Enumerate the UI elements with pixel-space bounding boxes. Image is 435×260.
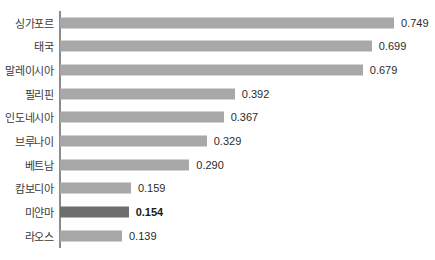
bar-segment	[60, 41, 372, 52]
plot-area: 싱가포르 0.749 태국 0.699 말레이시아 0.679 필리핀 0.39…	[0, 0, 435, 260]
category-label: 태국	[34, 38, 54, 54]
bar-segment	[60, 64, 363, 75]
bar-segment	[60, 88, 235, 99]
category-label: 라오스	[25, 228, 54, 244]
value-label: 0.329	[214, 135, 242, 147]
category-label: 싱가포르	[15, 15, 54, 31]
category-label: 베트남	[25, 157, 54, 173]
bar-segment	[60, 112, 224, 123]
value-label: 0.392	[242, 88, 270, 100]
bar-row: 인도네시아 0.367	[0, 106, 435, 129]
bar-row: 라오스 0.139	[0, 224, 435, 247]
bar-segment-highlighted	[60, 207, 129, 218]
category-label: 필리핀	[25, 86, 54, 102]
bar-segment	[60, 230, 122, 241]
bar-row: 싱가포르 0.749	[0, 11, 435, 34]
bar-chart: 싱가포르 0.749 태국 0.699 말레이시아 0.679 필리핀 0.39…	[0, 0, 435, 260]
bar-row: 캄보디아 0.159	[0, 177, 435, 200]
value-label: 0.367	[231, 111, 259, 123]
value-label-highlighted: 0.154	[136, 206, 164, 218]
bar-row: 브루나이 0.329	[0, 130, 435, 153]
bar-segment	[60, 136, 207, 147]
bar-segment	[60, 159, 189, 170]
value-label: 0.159	[138, 182, 166, 194]
value-label: 0.139	[129, 230, 157, 242]
value-label: 0.699	[379, 40, 407, 52]
category-label: 브루나이	[15, 133, 54, 149]
bar-row-highlighted: 미얀마 0.154	[0, 201, 435, 224]
category-label: 캄보디아	[15, 180, 54, 196]
category-label: 인도네시아	[5, 109, 54, 125]
bar-segment	[60, 183, 131, 194]
value-label: 0.679	[370, 64, 398, 76]
bar-row: 필리핀 0.392	[0, 82, 435, 105]
category-label: 미얀마	[25, 204, 54, 220]
category-label: 말레이시아	[5, 62, 54, 78]
bar-segment	[60, 17, 394, 28]
bar-row: 태국 0.699	[0, 35, 435, 58]
bar-row: 베트남 0.290	[0, 153, 435, 176]
value-label: 0.749	[401, 17, 429, 29]
value-label: 0.290	[196, 159, 224, 171]
bar-row: 말레이시아 0.679	[0, 58, 435, 81]
